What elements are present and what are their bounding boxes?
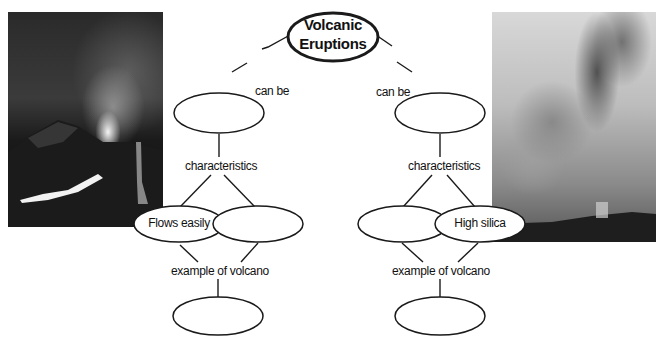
root-node-line1: Volcanic — [288, 15, 378, 34]
left-char-node-2[interactable] — [213, 216, 303, 232]
root-node: Volcanic Eruptions — [288, 15, 378, 53]
right-char-node-2[interactable]: High silica — [435, 216, 525, 230]
root-node-line2: Eruptions — [288, 34, 378, 53]
right-characteristics-label: characteristics — [407, 159, 481, 173]
right-example-label: example of volcano — [391, 264, 491, 278]
left-characteristics-label: characteristics — [184, 159, 258, 173]
right-type-node[interactable] — [395, 93, 485, 133]
left-example-node[interactable] — [173, 297, 263, 335]
left-type-node[interactable] — [174, 93, 264, 133]
left-char-node-1[interactable]: Flows easily — [134, 216, 224, 230]
left-example-label: example of volcano — [170, 264, 270, 278]
right-example-node[interactable] — [395, 297, 485, 335]
